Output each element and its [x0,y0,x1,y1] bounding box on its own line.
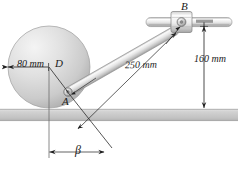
mechanism-drawing [0,0,238,170]
angle-label-beta: β [75,144,81,156]
point-label-a: A [62,96,69,107]
height-dimension-label: 160 mm [194,54,226,64]
mechanism-figure: 80 mm D A B 250 mm 160 mm β [0,0,238,170]
point-label-d: D [55,58,63,69]
height-dimension-160mm [200,26,208,108]
slider-collar-b [171,12,192,33]
ground-surface [0,109,238,121]
length-dimension-label: 250 mm [125,60,157,71]
radius-dimension-label: 80 mm [17,59,44,69]
point-label-b: B [181,1,188,12]
